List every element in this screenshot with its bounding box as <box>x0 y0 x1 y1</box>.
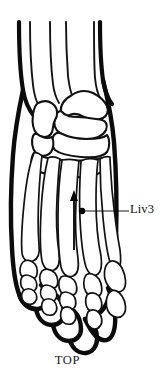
foot-anatomy-illustration <box>0 0 161 385</box>
phalanx-distal-1 <box>106 290 125 317</box>
tibia-shaft-right <box>66 22 72 95</box>
acupoint-dot-icon[interactable] <box>79 208 85 214</box>
cuboid-bone <box>33 101 57 137</box>
phalanx-distal-2 <box>87 310 102 329</box>
lower-leg-bones <box>50 22 72 103</box>
metatarsal-3 <box>58 159 79 276</box>
tibia-shaft-left <box>50 22 59 103</box>
metatarsal-2 <box>80 159 102 276</box>
foot-acupoint-figure: Liv3 TOP <box>0 0 161 385</box>
acupoint-label: Liv3 <box>130 203 154 216</box>
metatarsal-bones <box>22 153 121 277</box>
phalanx-distal-4 <box>42 299 57 316</box>
view-caption: TOP <box>0 353 135 368</box>
fibula-inner-line <box>30 22 39 106</box>
phalanx-distal-3 <box>61 307 76 324</box>
phalanx-distal-5 <box>22 289 37 305</box>
metatarsal-5 <box>22 153 42 262</box>
